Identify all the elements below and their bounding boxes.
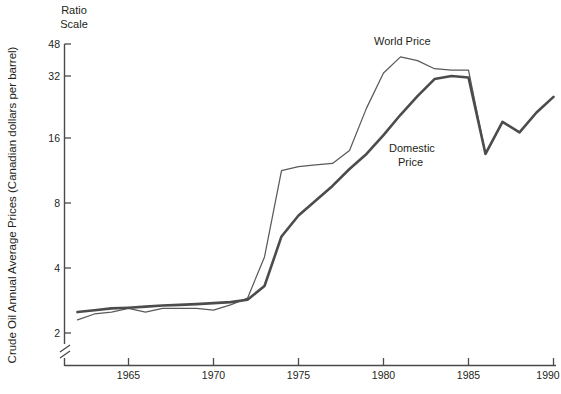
y-tick-label-16: 16: [48, 132, 60, 144]
y-tick-label-8: 8: [54, 197, 60, 209]
x-tick-label-1980: 1980: [372, 369, 396, 381]
y-tick-label-48: 48: [48, 38, 60, 50]
crude-oil-price-chart: 48 32 16 8 4 2 1965 1970 1975 1980 1985: [0, 0, 561, 394]
x-tick-label-1990: 1990: [536, 369, 560, 381]
y-tick-label-4: 4: [54, 262, 60, 274]
y-tick-label-2: 2: [54, 327, 60, 339]
y-axis-title: Crude Oil Annual Average Prices (Canadia…: [6, 46, 18, 363]
domestic-price-annotation-line1: Domestic: [389, 142, 435, 154]
y-tick-group: 48 32 16 8 4 2: [48, 38, 71, 339]
ratio-scale-note-line2: Scale: [60, 18, 88, 30]
x-tick-group: 1965 1970 1975 1980 1985 1990: [117, 358, 560, 381]
x-tick-label-1985: 1985: [457, 369, 481, 381]
y-tick-label-32: 32: [48, 70, 60, 82]
x-tick-label-1975: 1975: [287, 369, 311, 381]
axis-break-mark-upper: [60, 345, 70, 352]
domestic-price-annotation-line2: Price: [398, 156, 423, 168]
series-line-domestic-price: [78, 76, 554, 312]
world-price-annotation: World Price: [374, 35, 431, 47]
chart-svg: 48 32 16 8 4 2 1965 1970 1975 1980 1985: [0, 0, 561, 394]
axis-break-mark-lower: [60, 351, 70, 358]
x-tick-label-1965: 1965: [117, 369, 141, 381]
ratio-scale-note-line1: Ratio: [61, 4, 87, 16]
x-tick-label-1970: 1970: [202, 369, 226, 381]
series-line-world-price: [78, 57, 554, 320]
